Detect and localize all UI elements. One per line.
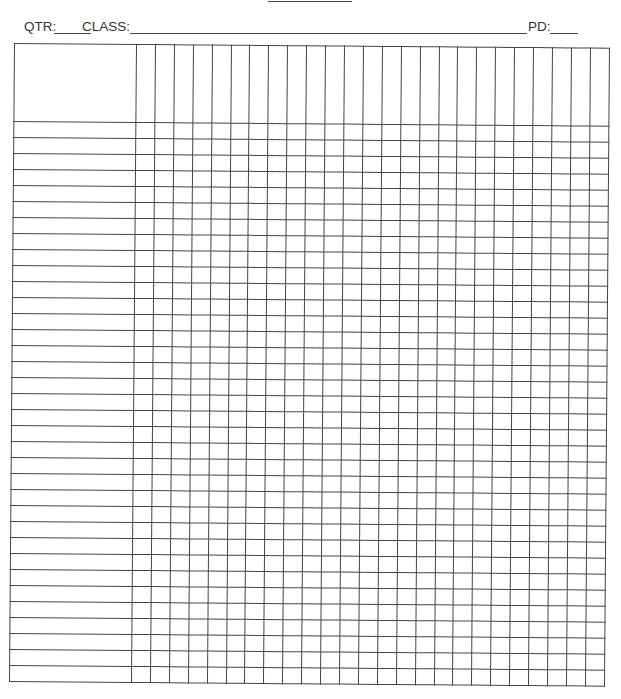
student-name-cell[interactable] bbox=[10, 649, 132, 666]
grade-cell[interactable] bbox=[173, 187, 192, 203]
grade-cell[interactable] bbox=[342, 332, 361, 348]
grade-cell[interactable] bbox=[566, 654, 585, 670]
grade-cell[interactable] bbox=[190, 459, 209, 475]
grade-cell[interactable] bbox=[530, 542, 549, 558]
grade-cell[interactable] bbox=[341, 444, 360, 460]
grade-cell[interactable] bbox=[208, 523, 227, 539]
grade-cell[interactable] bbox=[510, 653, 529, 669]
grade-cell[interactable] bbox=[435, 573, 454, 589]
grade-cell[interactable] bbox=[154, 219, 173, 235]
grade-cell[interactable] bbox=[210, 267, 229, 283]
grade-cell[interactable] bbox=[286, 236, 305, 252]
assignment-header-cell[interactable] bbox=[495, 47, 515, 125]
grade-cell[interactable] bbox=[247, 459, 266, 475]
grade-cell[interactable] bbox=[192, 171, 211, 187]
grade-cell[interactable] bbox=[567, 542, 586, 558]
grade-cell[interactable] bbox=[436, 445, 455, 461]
grade-cell[interactable] bbox=[230, 171, 249, 187]
grade-cell[interactable] bbox=[305, 252, 324, 268]
student-name-cell[interactable] bbox=[12, 361, 134, 378]
grade-cell[interactable] bbox=[533, 142, 552, 158]
grade-cell[interactable] bbox=[533, 158, 552, 174]
grade-cell[interactable] bbox=[284, 476, 303, 492]
grade-cell[interactable] bbox=[399, 301, 418, 317]
grade-cell[interactable] bbox=[247, 411, 266, 427]
grade-cell[interactable] bbox=[211, 187, 230, 203]
grade-cell[interactable] bbox=[493, 413, 512, 429]
grade-cell[interactable] bbox=[267, 251, 286, 267]
grade-cell[interactable] bbox=[209, 379, 228, 395]
grade-cell[interactable] bbox=[587, 414, 606, 430]
grade-cell[interactable] bbox=[378, 604, 397, 620]
grade-cell[interactable] bbox=[380, 332, 399, 348]
grade-cell[interactable] bbox=[586, 542, 605, 558]
grade-cell[interactable] bbox=[359, 540, 378, 556]
grade-cell[interactable] bbox=[266, 443, 285, 459]
grade-cell[interactable] bbox=[302, 620, 321, 636]
grade-cell[interactable] bbox=[399, 269, 418, 285]
grade-cell[interactable] bbox=[360, 460, 379, 476]
grade-cell[interactable] bbox=[511, 429, 530, 445]
grade-cell[interactable] bbox=[551, 174, 570, 190]
grade-cell[interactable] bbox=[341, 460, 360, 476]
grade-cell[interactable] bbox=[322, 476, 341, 492]
grade-cell[interactable] bbox=[246, 571, 265, 587]
grade-cell[interactable] bbox=[208, 603, 227, 619]
grade-cell[interactable] bbox=[325, 124, 344, 140]
grade-cell[interactable] bbox=[381, 204, 400, 220]
grade-cell[interactable] bbox=[473, 573, 492, 589]
grade-cell[interactable] bbox=[304, 316, 323, 332]
grade-cell[interactable] bbox=[362, 252, 381, 268]
grade-cell[interactable] bbox=[304, 380, 323, 396]
grade-cell[interactable] bbox=[321, 556, 340, 572]
grade-cell[interactable] bbox=[438, 157, 457, 173]
grade-cell[interactable] bbox=[323, 348, 342, 364]
grade-cell[interactable] bbox=[322, 508, 341, 524]
grade-cell[interactable] bbox=[455, 397, 474, 413]
grade-cell[interactable] bbox=[229, 251, 248, 267]
grade-cell[interactable] bbox=[417, 365, 436, 381]
grade-cell[interactable] bbox=[285, 316, 304, 332]
grade-cell[interactable] bbox=[455, 381, 474, 397]
grade-cell[interactable] bbox=[343, 268, 362, 284]
grade-cell[interactable] bbox=[190, 491, 209, 507]
grade-cell[interactable] bbox=[306, 124, 325, 140]
grade-cell[interactable] bbox=[472, 621, 491, 637]
grade-cell[interactable] bbox=[529, 638, 548, 654]
grade-cell[interactable] bbox=[567, 622, 586, 638]
grade-cell[interactable] bbox=[378, 524, 397, 540]
grade-cell[interactable] bbox=[586, 606, 605, 622]
grade-cell[interactable] bbox=[304, 348, 323, 364]
grade-cell[interactable] bbox=[570, 206, 589, 222]
grade-cell[interactable] bbox=[476, 157, 495, 173]
assignment-header-cell[interactable] bbox=[212, 45, 232, 123]
grade-cell[interactable] bbox=[378, 636, 397, 652]
grade-cell[interactable] bbox=[587, 446, 606, 462]
grade-cell[interactable] bbox=[211, 203, 230, 219]
grade-cell[interactable] bbox=[267, 235, 286, 251]
grade-cell[interactable] bbox=[247, 395, 266, 411]
grade-cell[interactable] bbox=[171, 411, 190, 427]
grade-cell[interactable] bbox=[588, 334, 607, 350]
grade-cell[interactable] bbox=[532, 270, 551, 286]
grade-cell[interactable] bbox=[531, 350, 550, 366]
grade-cell[interactable] bbox=[567, 590, 586, 606]
grade-cell[interactable] bbox=[135, 266, 154, 282]
grade-cell[interactable] bbox=[323, 364, 342, 380]
grade-cell[interactable] bbox=[304, 412, 323, 428]
grade-cell[interactable] bbox=[173, 251, 192, 267]
grade-cell[interactable] bbox=[495, 173, 514, 189]
grade-cell[interactable] bbox=[135, 234, 154, 250]
grade-cell[interactable] bbox=[303, 524, 322, 540]
grade-cell[interactable] bbox=[548, 590, 567, 606]
grade-cell[interactable] bbox=[457, 157, 476, 173]
grade-cell[interactable] bbox=[302, 636, 321, 652]
grade-cell[interactable] bbox=[154, 155, 173, 171]
grade-cell[interactable] bbox=[568, 510, 587, 526]
grade-cell[interactable] bbox=[550, 350, 569, 366]
grade-cell[interactable] bbox=[342, 316, 361, 332]
grade-cell[interactable] bbox=[342, 348, 361, 364]
grade-cell[interactable] bbox=[510, 589, 529, 605]
grade-cell[interactable] bbox=[491, 573, 510, 589]
grade-cell[interactable] bbox=[228, 459, 247, 475]
